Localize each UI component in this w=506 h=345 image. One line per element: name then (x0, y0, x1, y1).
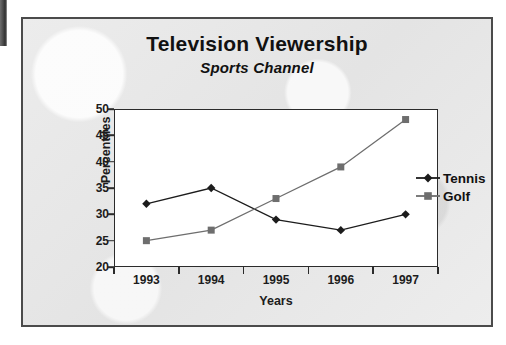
square-marker-icon (415, 189, 441, 203)
plot-wrapper: Percentiles 20253035404550 1993199419951… (69, 93, 479, 318)
series-line-tennis (146, 188, 405, 230)
data-point-golf (402, 116, 409, 123)
legend-item-golf[interactable]: Golf (415, 187, 486, 205)
data-point-tennis (142, 200, 150, 208)
x-tick-label: 1995 (246, 273, 306, 287)
legend-label-golf: Golf (443, 189, 470, 204)
legend-label-tennis: Tennis (443, 171, 486, 186)
data-point-golf (208, 227, 215, 234)
x-tick-label: 1996 (311, 273, 371, 287)
x-tick-mark (372, 267, 374, 274)
data-point-golf (273, 195, 280, 202)
x-tick-mark (178, 267, 180, 274)
x-tick-mark (113, 267, 115, 274)
series-overlay (114, 109, 438, 267)
data-point-golf (337, 163, 344, 170)
x-axis-title: Years (114, 294, 438, 308)
x-tick-mark (243, 267, 245, 274)
left-edge-bar (0, 0, 7, 46)
y-tick-label: 35 (69, 181, 109, 195)
chart-subtitle: Sports Channel (23, 59, 491, 76)
x-tick-label: 1994 (181, 273, 241, 287)
data-point-tennis (207, 184, 215, 192)
data-point-tennis (272, 215, 280, 223)
y-tick-label: 50 (69, 102, 109, 116)
chart-frame: Television Viewership Sports Channel Per… (21, 17, 493, 327)
y-axis-tick-labels: 20253035404550 (69, 93, 109, 318)
data-point-golf (143, 237, 150, 244)
legend-item-tennis[interactable]: Tennis (415, 169, 486, 187)
x-tick-mark (308, 267, 310, 274)
y-tick-label: 25 (69, 234, 109, 248)
x-tick-label: 1997 (376, 273, 436, 287)
chart-title: Television Viewership (23, 32, 491, 56)
x-tick-mark (437, 267, 439, 274)
y-tick-label: 45 (69, 128, 109, 142)
legend: Tennis Golf (415, 169, 486, 205)
x-tick-label: 1993 (116, 273, 176, 287)
y-tick-label: 40 (69, 155, 109, 169)
diamond-marker-icon (415, 171, 441, 185)
data-point-tennis (337, 226, 345, 234)
y-tick-label: 30 (69, 207, 109, 221)
y-tick-label: 20 (69, 260, 109, 274)
data-point-tennis (401, 210, 409, 218)
